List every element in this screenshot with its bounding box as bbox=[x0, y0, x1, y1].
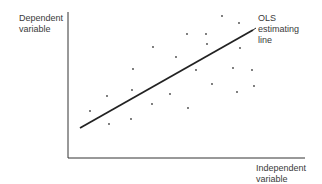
data-point bbox=[205, 33, 207, 35]
data-point bbox=[152, 46, 154, 48]
annotation-leader bbox=[253, 28, 256, 30]
line-annotation-label: OLS estimating line bbox=[258, 13, 299, 46]
data-point bbox=[187, 107, 189, 109]
data-point bbox=[186, 33, 188, 35]
ols-regression-line bbox=[80, 30, 253, 128]
data-point bbox=[106, 95, 108, 97]
data-point bbox=[239, 47, 241, 49]
data-point bbox=[175, 56, 177, 58]
data-point bbox=[251, 69, 253, 71]
data-point bbox=[89, 110, 91, 112]
data-point bbox=[236, 91, 238, 93]
data-point bbox=[211, 83, 213, 85]
data-point bbox=[206, 43, 208, 45]
data-point bbox=[221, 15, 223, 17]
data-point bbox=[151, 103, 153, 105]
y-axis-label: Dependent variable bbox=[19, 13, 63, 35]
data-point bbox=[169, 93, 171, 95]
data-point bbox=[130, 118, 132, 120]
data-point bbox=[195, 69, 197, 71]
data-point bbox=[132, 68, 134, 70]
x-axis-label: Independent variable bbox=[256, 163, 306, 184]
data-point bbox=[131, 89, 133, 91]
data-point bbox=[238, 22, 240, 24]
data-point bbox=[253, 85, 255, 87]
data-point bbox=[232, 67, 234, 69]
data-point bbox=[108, 123, 110, 125]
